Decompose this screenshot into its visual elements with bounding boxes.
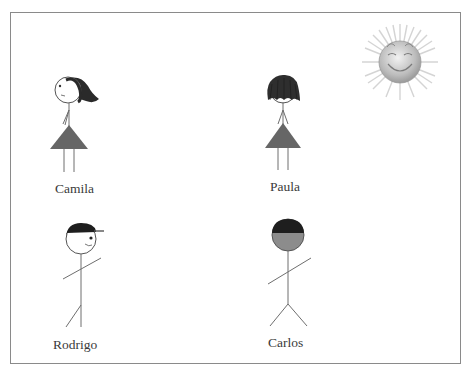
name-label-rodrigo: Rodrigo <box>53 337 98 352</box>
figure-paula <box>265 75 301 170</box>
dress <box>50 125 88 149</box>
figure-carlos <box>268 219 311 326</box>
smiling-sun-icon <box>362 24 438 100</box>
name-label-camila: Camila <box>55 181 94 196</box>
short-messy-hair <box>267 75 300 101</box>
dress <box>265 123 301 148</box>
dark-hair <box>272 219 304 233</box>
figure-rodrigo <box>63 223 104 327</box>
name-label-paula: Paula <box>270 179 300 194</box>
scene-canvas: Camila Paula Rodrigo <box>0 0 470 373</box>
figure-camila <box>50 77 99 172</box>
name-label-carlos: Carlos <box>268 335 303 350</box>
